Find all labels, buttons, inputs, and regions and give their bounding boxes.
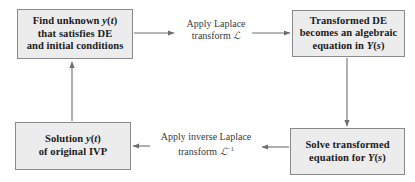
flowchart-canvas: Find unknown y(t) that satisfies DE and …	[0, 0, 415, 182]
inverse-exponent: −1	[227, 145, 234, 152]
node-solution-line2: of original IVP	[39, 146, 108, 157]
node-solution-line1: Solution	[45, 133, 86, 144]
node-find-paren-close: )	[114, 15, 118, 26]
script-l-inverse-icon: ℒ	[220, 146, 227, 157]
node-transformed-paren-close: )	[381, 40, 385, 51]
node-solve-transformed: Solve transformed equation for Y(s)	[290, 128, 405, 175]
node-solution-ivp: Solution y(t) of original IVP	[15, 122, 131, 170]
edge-label-apply-laplace: Apply Laplace transform ℒ	[178, 18, 254, 42]
node-transformed-line1: Transformed DE	[310, 15, 387, 26]
node-solution-paren-close: )	[97, 133, 101, 144]
node-transformed-line3: equation in	[312, 40, 366, 51]
node-solve-line1: Solve transformed	[305, 139, 389, 150]
node-find-unknown: Find unknown y(t) that satisfies DE and …	[17, 9, 133, 59]
node-transformed-line2: becomes an algebraic	[300, 27, 398, 38]
edge-label-inverse-line2: transform	[178, 146, 219, 157]
node-transformed-de: Transformed DE becomes an algebraic equa…	[292, 10, 405, 57]
edge-label-inverse-line1: Apply inverse Laplace	[161, 131, 252, 142]
script-l-icon: ℒ	[233, 30, 240, 41]
node-solve-line2: equation for	[309, 152, 368, 163]
node-find-line1: Find unknown	[33, 15, 103, 26]
edge-label-forward-line2: transform	[192, 30, 233, 41]
node-find-line2: that satisfies DE	[38, 28, 113, 39]
edge-label-apply-inverse-laplace: Apply inverse Laplace transform ℒ−1	[152, 131, 260, 158]
node-find-line3: and initial conditions	[27, 40, 124, 51]
edge-label-forward-line1: Apply Laplace	[186, 18, 245, 29]
node-solve-paren-close: )	[382, 152, 386, 163]
